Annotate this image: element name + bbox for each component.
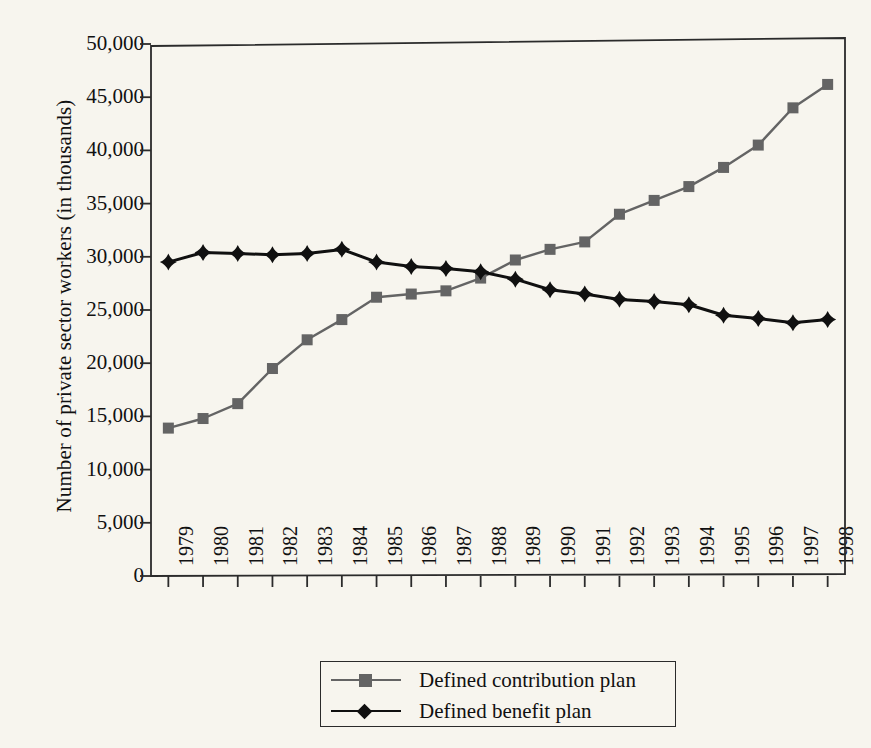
- legend-item-defined-benefit-plan[interactable]: Defined benefit plan: [321, 695, 675, 726]
- y-axis-ticks: [140, 44, 151, 576]
- series-defined-benefit-plan: [160, 241, 836, 331]
- diamond-marker-icon: [331, 701, 401, 721]
- legend-label-defined-benefit-plan: Defined benefit plan: [401, 700, 592, 722]
- chart-figure: Number of private sector workers (in tho…: [0, 0, 871, 748]
- series-layer: [160, 79, 836, 434]
- x-axis-ticks: [168, 576, 827, 587]
- square-marker-icon: [331, 670, 401, 690]
- legend-item-defined-contribution-plan[interactable]: Defined contribution plan: [321, 664, 675, 695]
- plot-area: [0, 0, 871, 748]
- legend: Defined contribution plan Defined benefi…: [320, 661, 676, 727]
- legend-label-defined-contribution-plan: Defined contribution plan: [401, 669, 636, 691]
- axis-frame: [151, 38, 845, 576]
- series-defined-contribution-plan: [163, 79, 833, 434]
